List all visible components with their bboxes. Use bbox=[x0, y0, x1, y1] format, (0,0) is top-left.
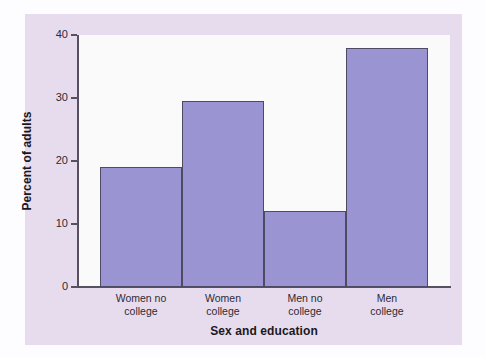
x-axis-title: Sex and education bbox=[78, 324, 450, 338]
x-axis-category-label: Mencollege bbox=[346, 292, 428, 318]
y-axis-title: Percent of adults bbox=[20, 101, 34, 221]
bar bbox=[264, 211, 346, 287]
bar bbox=[182, 101, 264, 287]
y-axis-tick-mark bbox=[71, 34, 77, 36]
y-axis-tick-mark bbox=[71, 97, 77, 99]
category-label-line-2: college bbox=[346, 305, 428, 318]
category-label-line-1: Men no bbox=[287, 292, 322, 304]
x-axis-category-label: Women nocollege bbox=[100, 292, 182, 318]
chart-figure: 010203040 Percent of adults Women nocoll… bbox=[0, 0, 485, 357]
category-label-line-2: college bbox=[100, 305, 182, 318]
y-axis-line bbox=[77, 35, 79, 288]
y-axis-tick-mark bbox=[71, 286, 77, 288]
category-label-line-2: college bbox=[182, 305, 264, 318]
x-axis-category-label: Womencollege bbox=[182, 292, 264, 318]
bar bbox=[100, 167, 182, 287]
x-axis-category-label: Men nocollege bbox=[264, 292, 346, 318]
category-label-line-1: Women bbox=[205, 292, 241, 304]
y-axis-tick-label: 40 bbox=[24, 29, 68, 40]
category-label-line-1: Men bbox=[377, 292, 397, 304]
y-axis-tick-mark bbox=[71, 223, 77, 225]
bar bbox=[346, 48, 428, 287]
y-axis-tick-label: 0 bbox=[24, 281, 68, 292]
category-label-line-1: Women no bbox=[116, 292, 167, 304]
y-axis-tick-mark bbox=[71, 160, 77, 162]
category-label-line-2: college bbox=[264, 305, 346, 318]
